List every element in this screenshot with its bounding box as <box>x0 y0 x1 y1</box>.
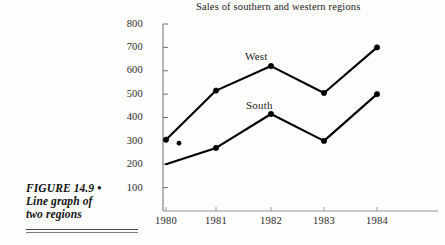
ytick-label-800: 800 <box>117 18 143 29</box>
series-line-west <box>166 47 377 139</box>
data-point-south-1983 <box>321 138 326 143</box>
xtick-label-1981: 1981 <box>199 215 233 226</box>
data-point-west-1980 <box>163 137 168 142</box>
data-point-south-1981 <box>213 145 218 150</box>
data-point-south-1982 <box>268 111 273 116</box>
ytick-label-200: 200 <box>117 158 143 169</box>
data-point-south-1984 <box>374 91 379 96</box>
data-point-west-1981 <box>213 88 218 93</box>
chart-canvas <box>0 0 445 245</box>
ytick-label-400: 400 <box>117 111 143 122</box>
ytick-label-100: 100 <box>117 182 143 193</box>
xtick-label-1983: 1983 <box>307 215 341 226</box>
series-label-south: South <box>246 99 273 111</box>
data-point-west-1983 <box>321 90 326 95</box>
line-chart-plot: 800 700 600 500 400 300 200 100 1980 198… <box>0 0 445 245</box>
xtick-label-1982: 1982 <box>254 215 288 226</box>
xtick-label-1980: 1980 <box>149 215 183 226</box>
ytick-label-300: 300 <box>117 135 143 146</box>
data-point-west-1984 <box>374 45 379 50</box>
ytick-label-700: 700 <box>117 41 143 52</box>
ytick-label-600: 600 <box>117 64 143 75</box>
figure-container: FIGURE 14.9 • Line graph of two regions … <box>0 0 445 245</box>
data-point-west-1982 <box>268 63 273 68</box>
ytick-label-500: 500 <box>117 88 143 99</box>
xtick-label-1984: 1984 <box>360 215 394 226</box>
stray-print-dot <box>177 141 182 146</box>
series-label-west: West <box>245 50 268 62</box>
